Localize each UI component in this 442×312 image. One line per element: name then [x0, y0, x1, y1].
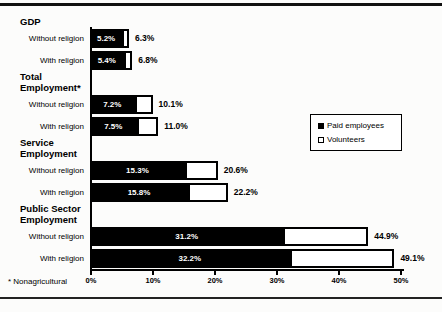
row-label: Without religion: [0, 100, 90, 109]
y-axis-line: [90, 27, 92, 269]
group-header: GDP: [0, 14, 442, 27]
x-axis-line: [90, 269, 404, 271]
total-value-label: 22.2%: [234, 187, 258, 197]
bar-row: Without religion5.2%6.3%: [0, 27, 442, 49]
volunteers-segment: [188, 183, 228, 202]
footnote: * Nonagricultural: [8, 277, 67, 286]
axis-tick-label: 0%: [74, 276, 108, 285]
row-label: Without religion: [0, 34, 90, 43]
bar-row: With religion5.4%6.8%: [0, 49, 442, 71]
axis-tick: [338, 269, 340, 275]
paid-value-label: 7.5%: [104, 122, 122, 131]
row-label: With religion: [0, 254, 90, 263]
total-value-label: 11.0%: [164, 121, 188, 131]
volunteers-segment: [124, 51, 133, 70]
bar-row: Without religion7.2%10.1%: [0, 93, 442, 115]
row-label: Without religion: [0, 232, 90, 241]
total-value-label: 6.8%: [138, 55, 157, 65]
paid-value-label: 5.2%: [97, 34, 115, 43]
row-label: With religion: [0, 188, 90, 197]
total-value-label: 20.6%: [224, 165, 248, 175]
paid-employees-segment: 5.2%: [90, 29, 122, 48]
paid-value-label: 7.2%: [103, 100, 121, 109]
axis-tick-label: 50%: [384, 276, 418, 285]
paid-employees-segment: 5.4%: [90, 51, 124, 70]
paid-employees-swatch-icon: [318, 123, 324, 129]
total-value-label: 10.1%: [159, 99, 183, 109]
bar-row: Without religion15.3%20.6%: [0, 159, 442, 181]
bar-row: With religion15.8%22.2%: [0, 181, 442, 203]
bar-area: 15.3%20.6%: [90, 161, 248, 180]
paid-employees-segment: 7.2%: [90, 95, 135, 114]
bar-area: 5.2%6.3%: [90, 29, 154, 48]
axis-tick-label: 20%: [198, 276, 232, 285]
bar-area: 7.5%11.0%: [90, 117, 188, 136]
legend-item-volunteers: Volunteers: [318, 135, 395, 144]
volunteers-swatch-icon: [318, 137, 324, 143]
row-label: With religion: [0, 122, 90, 131]
paid-employees-segment: 31.2%: [90, 227, 283, 246]
bar-area: 32.2%49.1%: [90, 249, 425, 268]
legend: Paid employees Volunteers: [310, 114, 402, 151]
paid-employees-segment: 7.5%: [90, 117, 137, 136]
group-header: Public SectorEmployment: [0, 203, 442, 225]
total-value-label: 44.9%: [374, 231, 398, 241]
volunteers-segment: [137, 117, 159, 136]
bottom-rule: [0, 297, 442, 299]
axis-tick-label: 30%: [260, 276, 294, 285]
group-header-line: Public Sector: [20, 203, 442, 214]
axis-tick: [90, 269, 92, 275]
volunteers-segment: [283, 227, 368, 246]
bar-row: Without religion31.2%44.9%: [0, 225, 442, 247]
bar-area: 31.2%44.9%: [90, 227, 398, 246]
axis-tick-label: 10%: [136, 276, 170, 285]
total-value-label: 49.1%: [400, 253, 424, 263]
legend-item-paid: Paid employees: [318, 121, 395, 130]
paid-employees-segment: 32.2%: [90, 249, 290, 268]
paid-employees-segment: 15.3%: [90, 161, 185, 180]
axis-tick: [152, 269, 154, 275]
legend-label-paid: Paid employees: [327, 121, 384, 130]
volunteers-segment: [135, 95, 153, 114]
bar-area: 5.4%6.8%: [90, 51, 158, 70]
bar-area: 7.2%10.1%: [90, 95, 183, 114]
axis-tick: [214, 269, 216, 275]
total-value-label: 6.3%: [135, 33, 154, 43]
group-header-line: GDP: [20, 16, 442, 27]
group-header-line: Employment*: [20, 82, 442, 93]
axis-tick: [276, 269, 278, 275]
volunteers-segment: [290, 249, 395, 268]
axis-tick-label: 40%: [322, 276, 356, 285]
bar-row: With religion32.2%49.1%: [0, 247, 442, 269]
chart-page: GDPWithout religion5.2%6.3%With religion…: [0, 0, 442, 312]
group-header-line: Total: [20, 71, 442, 82]
bar-area: 15.8%22.2%: [90, 183, 258, 202]
paid-value-label: 15.3%: [126, 166, 149, 175]
volunteers-segment: [122, 29, 129, 48]
row-label: With religion: [0, 56, 90, 65]
top-rule: [0, 3, 442, 6]
group-header: TotalEmployment*: [0, 71, 442, 93]
paid-value-label: 32.2%: [178, 254, 201, 263]
legend-label-volunteers: Volunteers: [327, 135, 365, 144]
group-header-line: Employment: [20, 214, 442, 225]
paid-value-label: 5.4%: [98, 56, 116, 65]
paid-value-label: 31.2%: [175, 232, 198, 241]
volunteers-segment: [185, 161, 218, 180]
paid-employees-segment: 15.8%: [90, 183, 188, 202]
axis-tick: [400, 269, 402, 275]
paid-value-label: 15.8%: [128, 188, 151, 197]
row-label: Without religion: [0, 166, 90, 175]
